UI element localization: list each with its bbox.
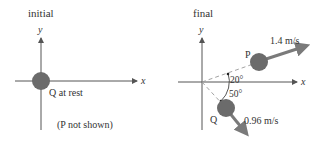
final-x-label: x (300, 76, 306, 87)
final-panel: final y x 20° 50° P 1.4 m/s Q 0.96 m/s (178, 7, 306, 133)
p-not-shown-note: (P not shown) (57, 119, 113, 131)
initial-y-label: y (37, 24, 43, 35)
final-y-label: y (198, 24, 204, 35)
initial-panel: initial y x Q at rest (P not shown) (15, 7, 146, 131)
ball-q-final (217, 99, 235, 117)
p-velocity-arrow (263, 46, 306, 60)
ball-p (250, 53, 268, 71)
p-speed-label: 1.4 m/s (270, 35, 300, 46)
arc-endpoint-p (227, 73, 230, 76)
p-angle-label: 20° (230, 75, 244, 85)
collision-diagram: initial y x Q at rest (P not shown) fina… (0, 0, 321, 152)
q-label: Q (210, 114, 218, 125)
initial-title: initial (28, 7, 54, 19)
final-title: final (193, 7, 213, 19)
q-at-rest-label: Q at rest (49, 87, 83, 98)
ball-q-initial (32, 72, 50, 90)
initial-x-label: x (140, 75, 146, 86)
q-angle-label: 50° (229, 89, 243, 99)
p-label: P (245, 49, 251, 60)
q-speed-label: 0.96 m/s (244, 115, 279, 126)
